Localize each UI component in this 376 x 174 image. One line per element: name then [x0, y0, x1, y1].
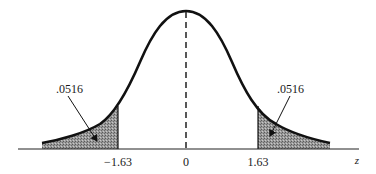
normal-curve-diagram: .0516 .0516 −1.63 0 1.63 z	[0, 0, 376, 174]
right-area-label: .0516	[277, 82, 304, 96]
left-area-label: .0516	[56, 82, 83, 96]
axis-label-z: z	[354, 154, 360, 166]
left-tail-shaded-region	[42, 106, 118, 149]
tick-label-neg: −1.63	[104, 155, 132, 169]
right-tail-shaded-region	[258, 106, 330, 149]
tick-label-pos: 1.63	[248, 155, 269, 169]
tick-label-zero: 0	[183, 155, 189, 169]
